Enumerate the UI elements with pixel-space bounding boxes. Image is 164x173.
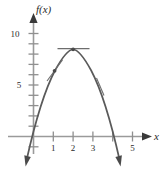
x-tick-label-3: 3 xyxy=(91,143,96,153)
axes-group xyxy=(8,13,152,154)
parabola-plot: f(x) x 10 5 1 2 3 5 xyxy=(0,0,164,173)
x-tick-label-2: 2 xyxy=(71,143,76,153)
curve-end-left-arrow-icon xyxy=(24,155,31,166)
x-tick-label-1: 1 xyxy=(51,143,56,153)
x-axis-label: x xyxy=(153,130,159,142)
graph-figure: f(x) x 10 5 1 2 3 5 xyxy=(0,0,164,173)
y-tick-label-5: 5 xyxy=(17,80,22,90)
y-axis-label: f(x) xyxy=(36,3,52,16)
curve-end-right-arrow-icon xyxy=(115,155,122,166)
x-axis-arrow-icon xyxy=(142,132,152,140)
tangent-point-vertex xyxy=(71,47,75,51)
y-tick-label-10: 10 xyxy=(11,29,21,39)
tangent-point-x1 xyxy=(53,69,57,73)
x-tick-label-5: 5 xyxy=(130,143,135,153)
